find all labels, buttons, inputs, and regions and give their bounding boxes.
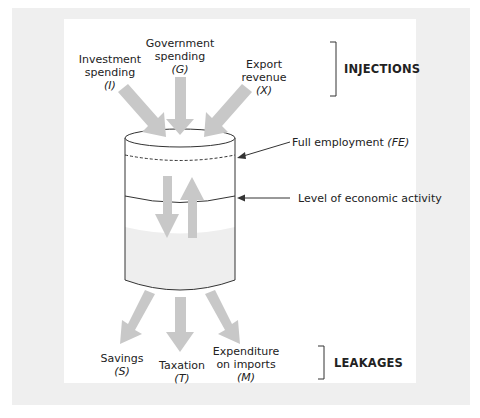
- injections-heading: INJECTIONS: [344, 62, 420, 76]
- taxation-label: Taxation (T): [156, 359, 208, 385]
- full-employment-label: Full employment (FE): [292, 136, 409, 149]
- savings-arrow: [120, 290, 155, 344]
- imports-arrow: [205, 290, 240, 344]
- imports-label: Expenditure on imports (M): [211, 345, 281, 384]
- internal-flow-arrows: [155, 176, 204, 238]
- savings-label: Savings (S): [97, 352, 147, 378]
- taxation-arrow: [166, 297, 194, 352]
- up-flow-arrow: [180, 177, 204, 238]
- brackets: [318, 42, 336, 379]
- investment-label: Investment spending (I): [75, 53, 145, 92]
- government-label: Government spending (G): [145, 37, 215, 76]
- government-arrow: [166, 77, 194, 135]
- leakages-bracket: [318, 346, 324, 379]
- leakages-heading: LEAKAGES: [334, 356, 403, 370]
- activity-level-label: Level of economic activity: [298, 192, 442, 205]
- pointer-lines: [237, 142, 290, 202]
- activity-level-line: [125, 196, 235, 203]
- activity-fill: [125, 227, 235, 290]
- full-employment-line: [125, 155, 235, 161]
- export-label: Export revenue (X): [234, 58, 294, 97]
- injections-bracket: [330, 42, 336, 96]
- tank: [125, 129, 235, 290]
- down-flow-arrow: [155, 176, 179, 238]
- leakage-arrows: [120, 290, 240, 352]
